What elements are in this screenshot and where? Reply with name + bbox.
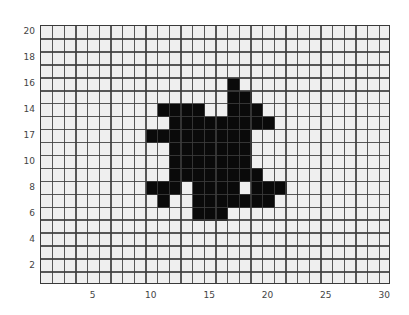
horizontal-grid-line bbox=[41, 155, 389, 157]
grid-lines-layer bbox=[41, 26, 389, 283]
horizontal-grid-line bbox=[41, 258, 389, 260]
horizontal-grid-line bbox=[41, 77, 389, 79]
plot-area bbox=[40, 25, 390, 284]
x-tick-label: 5 bbox=[81, 290, 105, 300]
horizontal-grid-line bbox=[41, 245, 389, 247]
horizontal-grid-line bbox=[41, 271, 389, 273]
x-tick-label: 25 bbox=[314, 290, 338, 300]
y-tick-label: 8 bbox=[13, 182, 35, 192]
horizontal-grid-line bbox=[41, 219, 389, 221]
horizontal-grid-line bbox=[41, 90, 389, 92]
y-tick-label: 16 bbox=[13, 78, 35, 88]
chart-figure: 2468101714161820 51015202530 bbox=[0, 0, 409, 315]
y-tick-label: 2 bbox=[13, 260, 35, 270]
x-tick-label: 10 bbox=[139, 290, 163, 300]
horizontal-grid-line bbox=[41, 142, 389, 144]
horizontal-grid-line bbox=[41, 38, 389, 40]
horizontal-grid-line bbox=[41, 64, 389, 66]
horizontal-grid-line bbox=[41, 232, 389, 234]
x-tick-label: 20 bbox=[256, 290, 280, 300]
y-tick-label: 10 bbox=[13, 156, 35, 166]
horizontal-grid-line bbox=[41, 51, 389, 53]
horizontal-grid-line bbox=[41, 116, 389, 118]
y-tick-label: 20 bbox=[13, 26, 35, 36]
horizontal-grid-line bbox=[41, 207, 389, 209]
horizontal-grid-line bbox=[41, 103, 389, 105]
horizontal-grid-line bbox=[41, 168, 389, 170]
y-tick-label: 6 bbox=[13, 208, 35, 218]
horizontal-grid-line bbox=[41, 194, 389, 196]
horizontal-grid-line bbox=[41, 129, 389, 131]
x-tick-label: 15 bbox=[197, 290, 221, 300]
x-tick-label: 30 bbox=[372, 290, 396, 300]
y-tick-label: 4 bbox=[13, 234, 35, 244]
horizontal-grid-line bbox=[41, 181, 389, 183]
y-tick-label: 18 bbox=[13, 52, 35, 62]
y-tick-label: 14 bbox=[13, 104, 35, 114]
y-tick-label: 17 bbox=[13, 130, 35, 140]
